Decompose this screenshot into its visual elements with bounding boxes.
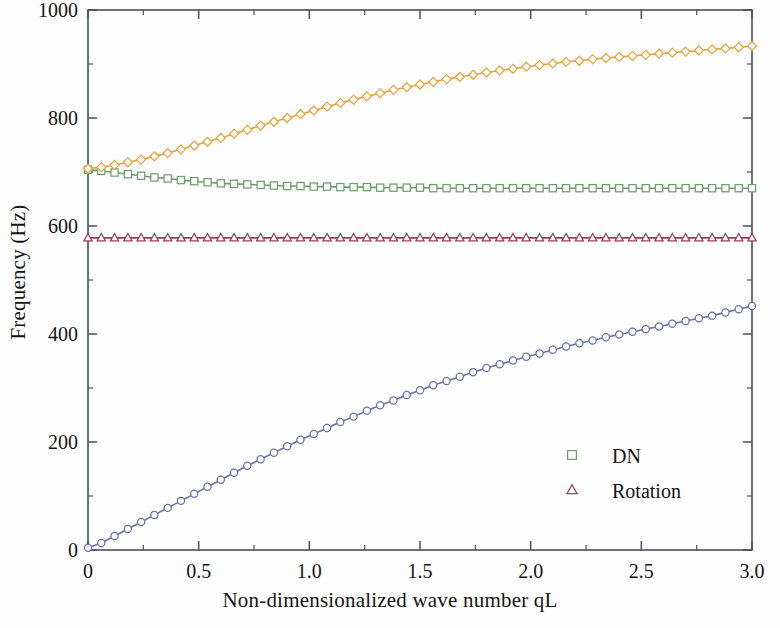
x-tick-label: 0.5 [186,560,211,583]
x-tick-label: 3.0 [740,560,765,583]
series-lower-branch [84,302,755,551]
legend-marker-dn [568,451,577,460]
x-tick-label: 0 [83,560,93,583]
legend-label-dn: DN [612,445,641,468]
data-series-layer [84,42,757,552]
y-axis-title: Frequency (Hz) [6,0,36,552]
axis-frame [88,10,752,550]
plot-area [0,0,780,628]
legend-label-rotation: Rotation [612,480,681,503]
series-upper-branch [84,42,757,174]
x-tick-label: 1.0 [297,560,322,583]
x-tick-label: 1.5 [408,560,433,583]
series-dn [84,166,755,192]
x-tick-label: 2.5 [629,560,654,583]
x-tick-label: 2.0 [518,560,543,583]
x-axis-title: Non-dimensionalized wave number qL [0,588,780,613]
legend-markers [567,451,577,494]
tick-marks [88,10,752,550]
series-rotation [84,234,756,241]
frequency-dispersion-chart: 02004006008001000 00.51.01.52.02.53.0 No… [0,0,780,628]
legend-marker-rotation [567,485,577,494]
